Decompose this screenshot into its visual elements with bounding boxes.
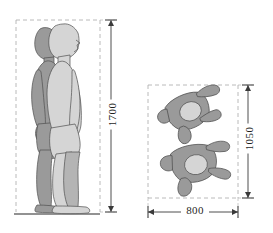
diagram-canvas: 1700 1050 800 <box>0 0 273 233</box>
dimension-label-depth: 1050 <box>244 124 255 154</box>
figure-front-silhouette <box>47 24 90 214</box>
plan-view <box>148 81 254 218</box>
technical-drawing <box>0 0 273 233</box>
side-elevation-view <box>14 20 117 214</box>
plan-figure-upper <box>153 81 234 150</box>
plan-figure-lower <box>158 138 237 199</box>
dimension-label-width: 800 <box>181 205 209 216</box>
dimension-label-height: 1700 <box>107 100 118 130</box>
